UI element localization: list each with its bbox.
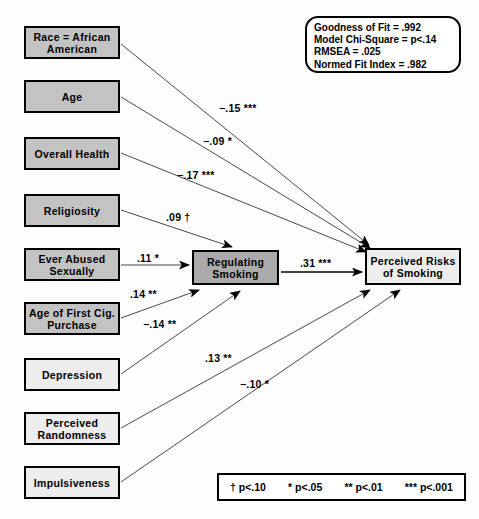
significance-legend: † p<.10 * p<.05 ** p<.01 *** p<.001 [217,473,466,501]
fit-normed-fit-index: Normed Fit Index = .982 [314,59,459,71]
node-perceived-randomness[interactable]: Perceived Randomness [24,412,120,445]
fit-model-chi-square: Model Chi-Square = p<.14 [314,34,459,46]
legend-three-star: *** p<.001 [405,481,453,493]
node-age[interactable]: Age [24,80,120,113]
node-religiosity-label: Religiosity [42,205,102,217]
fit-statistics-box: Goodness of Fit = .992 Model Chi-Square … [305,16,461,73]
node-age-of-first-cig-purchase-label: Age of First Cig. Purchase [26,307,118,331]
legend-one-star: * p<.05 [288,481,322,493]
path-overall-health-to-perceived-risks [121,153,366,252]
legend-dagger: † p<.10 [230,481,266,493]
node-perceived-risks-of-smoking-label: Perceived Risks of Smoking [367,255,459,279]
fit-goodness-of-fit: Goodness of Fit = .992 [314,22,459,34]
node-impulsiveness-label: Impulsiveness [32,477,112,489]
node-depression[interactable]: Depression [24,358,120,391]
node-depression-label: Depression [40,369,104,381]
coefficient-regulating-smoking-to-perceived-risks: .31 *** [300,257,331,269]
node-age-label: Age [60,91,85,103]
coefficient-impulsiveness-to-perceived-risks: −.10 * [240,378,269,390]
node-race-label: Race = African American [26,31,118,55]
coefficient-race-to-perceived-risks: −.15 *** [219,102,257,114]
legend-two-star: ** p<.01 [344,481,382,493]
node-regulating-smoking-label: Regulating Smoking [194,256,277,280]
node-regulating-smoking[interactable]: Regulating Smoking [192,250,279,285]
node-perceived-risks-of-smoking[interactable]: Perceived Risks of Smoking [365,248,461,285]
path-diagram-canvas: Race = African American Age Overall Heal… [0,0,479,519]
coefficient-overall-health-to-perceived-risks: −.17 *** [177,169,215,181]
node-perceived-randomness-label: Perceived Randomness [26,417,118,441]
node-ever-abused-sexually-label: Ever Abused Sexually [26,253,118,277]
node-impulsiveness[interactable]: Impulsiveness [24,466,120,499]
path-race-to-perceived-risks [121,44,369,245]
coefficient-depression-to-regulating-smoking: −.14 ** [143,318,176,330]
coefficient-age-first-cig-to-regulating-smoking: .14 ** [130,288,157,300]
node-ever-abused-sexually[interactable]: Ever Abused Sexually [24,248,120,281]
coefficient-age-to-perceived-risks: −.09 * [203,135,232,147]
coefficient-ever-abused-to-regulating-smoking: .11 * [137,252,159,264]
path-age-to-perceived-risks [121,97,370,248]
node-overall-health-label: Overall Health [33,148,112,160]
node-religiosity[interactable]: Religiosity [24,194,120,227]
node-race[interactable]: Race = African American [24,26,120,59]
coefficient-religiosity-to-regulating-smoking: .09 † [166,211,190,223]
fit-rmsea: RMSEA = .025 [314,46,459,58]
node-overall-health[interactable]: Overall Health [24,137,120,170]
coefficient-perceived-randomness-to-perceived-risks: .13 ** [205,352,232,364]
path-perceived-randomness-to-perceived-risks [121,290,370,428]
node-age-of-first-cig-purchase[interactable]: Age of First Cig. Purchase [24,302,120,335]
